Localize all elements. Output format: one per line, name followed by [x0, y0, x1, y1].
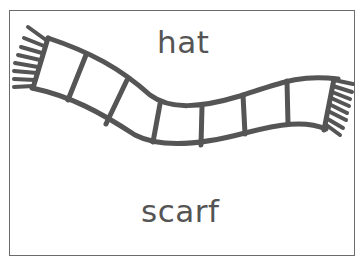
label-scarf: scarf: [141, 196, 219, 227]
